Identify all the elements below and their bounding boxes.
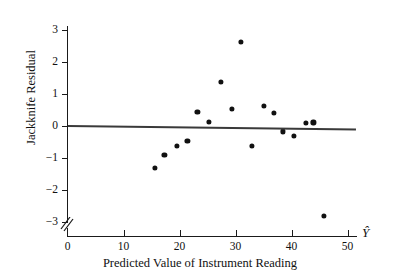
x-tick-label-20: 20	[165, 241, 195, 253]
data-point	[281, 129, 286, 134]
data-point	[174, 143, 179, 148]
y-tick-2	[62, 62, 68, 63]
y-tick-label--2: −2	[34, 184, 58, 196]
data-point	[230, 106, 235, 111]
data-point	[249, 143, 254, 148]
data-point	[218, 80, 223, 85]
y-axis-title: Jackknife Residual	[24, 18, 39, 178]
data-point	[272, 110, 277, 115]
data-point	[195, 109, 200, 114]
data-point	[152, 166, 157, 171]
data-point	[185, 138, 190, 143]
data-point	[321, 214, 326, 219]
x-axis-title: Predicted Value of Instrument Reading	[50, 256, 350, 271]
x-tick-10	[124, 230, 125, 236]
x-tick-label-50: 50	[333, 241, 363, 253]
x-axis-line	[67, 236, 357, 237]
data-point	[162, 152, 167, 157]
x-tick-label-10: 10	[109, 241, 139, 253]
data-point	[311, 120, 316, 125]
axis-break-icon	[60, 217, 78, 235]
x-tick-30	[236, 230, 237, 236]
jackknife-residual-plot: −3−2−1012301020304050 Jackknife Residual…	[0, 0, 407, 277]
x-tick-40	[292, 230, 293, 236]
x-tick-20	[180, 230, 181, 236]
x-tick-label-30: 30	[221, 241, 251, 253]
zero-residual-line	[67, 125, 355, 130]
y-tick-1	[62, 94, 68, 95]
data-point	[238, 40, 243, 45]
y-tick--1	[62, 158, 68, 159]
y-tick-3	[62, 30, 68, 31]
y-tick--2	[62, 190, 68, 191]
data-point	[303, 121, 308, 126]
y-tick-label--3: −3	[34, 216, 58, 228]
x-tick-label-0: 0	[53, 241, 83, 253]
y-tick--3	[62, 222, 68, 223]
data-point	[292, 134, 297, 139]
x-tick-50	[348, 230, 349, 236]
data-point	[206, 119, 211, 124]
data-point	[261, 103, 266, 108]
x-tick-label-40: 40	[277, 241, 307, 253]
y-hat-axis-symbol: Ŷ	[362, 226, 369, 239]
